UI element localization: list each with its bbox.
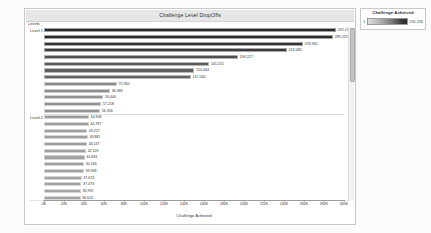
bar-row[interactable]: 42,126 [44, 149, 344, 153]
bar[interactable] [44, 89, 110, 93]
bar-row[interactable]: 37,674 [44, 176, 344, 180]
bar[interactable] [44, 135, 88, 139]
bar-row[interactable]: 43,881 [44, 135, 344, 139]
bar-row[interactable]: 43,137 [44, 142, 344, 146]
plot-wrapper: Levels Level 1Level 2 292,196289,255258,… [26, 21, 354, 223]
bar-row[interactable]: 147,030 [44, 75, 344, 79]
bar[interactable] [44, 189, 81, 193]
bar-row[interactable]: 258,965 [44, 42, 344, 46]
x-axis-tick: 160K [200, 202, 208, 206]
bar-row[interactable]: 194,227 [44, 55, 344, 59]
y-axis-group-labels: Level 1Level 2 [30, 27, 44, 201]
bar[interactable] [44, 82, 117, 86]
bar[interactable] [44, 162, 84, 166]
x-axis-tick: 260K [300, 202, 308, 206]
bar[interactable] [44, 142, 87, 146]
bar-value-label: 39,948 [85, 169, 96, 173]
x-axis-tick: 20K [61, 202, 67, 206]
plot-vertical-scrollbar[interactable] [348, 27, 354, 201]
bar-row[interactable]: 165,215 [44, 62, 344, 66]
bar-row[interactable]: 39,948 [44, 169, 344, 173]
bar[interactable] [44, 28, 336, 32]
x-axis-tick: 240K [280, 202, 288, 206]
legend-gradient-row: 1 292,196 [363, 18, 423, 25]
bar-row[interactable]: 57,218 [44, 102, 344, 106]
bar[interactable] [44, 182, 81, 186]
x-axis-tick: 100K [140, 202, 148, 206]
bar[interactable] [44, 109, 100, 113]
bar-row[interactable]: 40,166 [44, 162, 344, 166]
bar[interactable] [44, 35, 333, 39]
bar-value-label: 37,674 [83, 176, 94, 180]
bar[interactable] [44, 95, 103, 99]
bar[interactable] [44, 42, 303, 46]
bar-value-label: 66,380 [112, 89, 123, 93]
bar[interactable] [44, 62, 209, 66]
bar[interactable] [44, 75, 191, 79]
bar-value-label: 42,126 [88, 149, 99, 153]
y-group-label-1: Level 1 [30, 28, 43, 33]
bar-value-label: 40,833 [86, 155, 97, 159]
bar-row[interactable]: 56,356 [44, 109, 344, 113]
bar[interactable] [44, 169, 84, 173]
bar-value-label: 43,227 [89, 129, 100, 133]
bar-row[interactable]: 289,255 [44, 35, 344, 39]
bar[interactable] [44, 149, 86, 153]
bar-value-label: 44,787 [90, 122, 101, 126]
bar-value-label: 43,881 [89, 135, 100, 139]
y-group-label-2: Level 2 [30, 115, 43, 120]
bar-value-label: 44,908 [90, 115, 101, 119]
bar-row[interactable]: 44,787 [44, 122, 344, 126]
bar[interactable] [44, 129, 87, 133]
group-divider [44, 114, 344, 115]
bar-row[interactable]: 292,196 [44, 28, 344, 32]
legend-title: Challenge Achieved [361, 10, 425, 16]
bar-row[interactable]: 243,080 [44, 48, 344, 52]
bar-row[interactable]: 36,992 [44, 189, 344, 193]
bar-value-label: 43,137 [89, 142, 100, 146]
bar-value-label: 165,215 [211, 62, 224, 66]
bar-value-label: 59,440 [105, 95, 116, 99]
bar-value-label: 243,080 [289, 48, 302, 52]
bar[interactable] [44, 55, 238, 59]
bar-row[interactable]: 66,380 [44, 89, 344, 93]
bar[interactable] [44, 68, 194, 72]
x-axis-tick: 180K [220, 202, 228, 206]
bar[interactable] [44, 115, 89, 119]
chart-panel: Challenge Level DropOffs Levels Level 1L… [24, 8, 356, 225]
bar-value-label: 57,218 [103, 102, 114, 106]
bar-value-label: 56,356 [102, 109, 113, 113]
bar-row[interactable]: 44,908 [44, 115, 344, 119]
x-axis-tick: 120K [160, 202, 168, 206]
bar[interactable] [44, 176, 82, 180]
bar-value-label: 40,166 [86, 162, 97, 166]
bar-row[interactable]: 59,440 [44, 95, 344, 99]
bar-value-label: 194,227 [240, 55, 253, 59]
bar[interactable] [44, 102, 101, 106]
x-axis-tick: 140K [180, 202, 188, 206]
legend-color-ramp [367, 18, 408, 25]
x-axis-tick: 0K [42, 202, 46, 206]
bar[interactable] [44, 48, 287, 52]
screenshot-root: Challenge Level DropOffs Levels Level 1L… [0, 0, 431, 233]
bar[interactable] [44, 155, 85, 159]
x-axis-tick: 60K [101, 202, 107, 206]
bar-value-label: 72,960 [118, 82, 129, 86]
bar-value-label: 37,473 [83, 182, 94, 186]
bar-row[interactable]: 150,444 [44, 68, 344, 72]
bar-value-label: 289,255 [335, 35, 348, 39]
x-axis-tick: 220K [260, 202, 268, 206]
bar-row[interactable]: 40,833 [44, 155, 344, 159]
bar-row[interactable]: 37,473 [44, 182, 344, 186]
x-axis-title: Challenge Achieved [44, 213, 344, 218]
legend-panel: Challenge Achieved 1 292,196 [360, 8, 426, 30]
bar[interactable] [44, 122, 89, 126]
bar-series: 292,196289,255258,965243,080194,227165,2… [44, 27, 344, 201]
bar-value-label: 36,992 [82, 189, 93, 193]
bar-value-label: 258,965 [304, 42, 317, 46]
bar-row[interactable]: 72,960 [44, 82, 344, 86]
scrollbar-thumb[interactable] [350, 28, 356, 82]
y-axis-header: Levels [28, 21, 40, 26]
bar-value-label: 147,030 [193, 75, 206, 79]
bar-row[interactable]: 43,227 [44, 129, 344, 133]
